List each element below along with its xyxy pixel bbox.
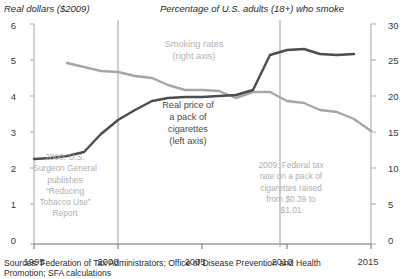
annotation-2000: 2000: U.S. Surgeon General publishes “Re… — [18, 152, 112, 220]
right-axis-ticks — [371, 24, 376, 244]
smoking-rates-label: Smoking rates (right axis) — [138, 38, 250, 62]
annotation-2009: 2009: Federal tax rate on a pack of ciga… — [240, 160, 342, 216]
price-label: Real price of a pack of cigarettes (left… — [132, 99, 244, 147]
sources-note: Sources: Federation of Tax Administrator… — [4, 258, 402, 278]
x-axis-ticks — [34, 244, 371, 249]
cigarette-price-smoking-rate-chart: Real dollars ($2009) Percentage of U.S. … — [0, 0, 405, 279]
